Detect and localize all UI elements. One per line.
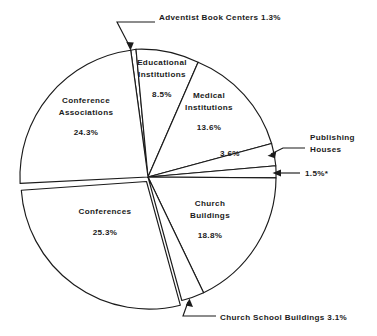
label-church-school-buildings: Church School Buildings 3.1% (220, 312, 347, 324)
label-publishing-houses-pct: 3.6% (213, 148, 247, 160)
label-publishing-houses: Publishing Houses (310, 132, 372, 155)
label-small-slice-pct: 1.5%* (305, 168, 347, 180)
label-conferences: Conferences 25.3% (63, 206, 147, 238)
leader-line-adventist-book-centers (117, 22, 155, 47)
label-adventist-book-centers: Adventist Book Centers 1.3% (159, 12, 281, 24)
pie-chart-figure: Adventist Book Centers 1.3% Educational … (0, 0, 377, 336)
label-medical-institutions: Medical Institutions 13.6% (176, 90, 242, 134)
label-conference-associations: Conference Associations 24.3% (44, 95, 128, 139)
leader-arrow-church-school-buildings (186, 299, 193, 308)
label-church-buildings: Church Buildings 18.8% (177, 198, 243, 242)
leader-line-publishing-houses (271, 148, 305, 154)
